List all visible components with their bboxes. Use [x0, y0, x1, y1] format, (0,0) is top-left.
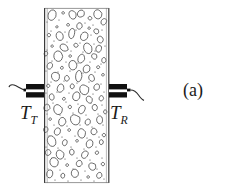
speckle-dot	[103, 178, 104, 179]
aggregate-particle	[91, 128, 97, 135]
speckle-dot	[103, 91, 104, 92]
speckle-dot	[51, 60, 52, 61]
speckle-dot	[64, 158, 65, 159]
aggregate-particle	[66, 164, 69, 167]
speckle-dot	[89, 61, 90, 62]
aggregate-particle	[47, 33, 50, 36]
aggregate-particle	[76, 70, 82, 81]
receiver-cable	[131, 90, 145, 100]
speckle-dot	[98, 136, 99, 137]
aggregate-particle	[97, 172, 102, 178]
transmitter-label-base: T	[20, 102, 31, 123]
speckle-dot	[52, 102, 53, 103]
aggregate-particle	[73, 92, 80, 101]
aggregate-particle	[54, 51, 63, 61]
speckle-dot	[50, 30, 51, 31]
aggregate-particle	[71, 169, 78, 177]
aggregate-particle	[51, 45, 54, 47]
transmitter-label: TT	[20, 103, 37, 127]
speckle-dot	[82, 72, 83, 73]
speckle-dot	[53, 40, 54, 41]
speckle-dot	[77, 103, 78, 104]
aggregate-particle	[65, 75, 70, 81]
aggregate-particle	[49, 118, 52, 121]
transmitter-transducer[interactable]	[9, 84, 44, 98]
aggregate-particle	[99, 140, 103, 145]
speckle-dot	[84, 170, 85, 171]
aggregate-particle	[45, 150, 51, 156]
speckle-dot	[63, 80, 64, 81]
speckle-dot	[58, 19, 59, 20]
speckle-dot	[79, 124, 80, 125]
speckle-dot	[77, 62, 78, 63]
aggregate-particle	[69, 55, 72, 58]
speckle-dot	[61, 136, 62, 137]
aggregate-particle	[77, 10, 84, 17]
transmitter-body-stripe	[26, 89, 44, 92]
aggregate-particle	[56, 26, 58, 28]
speckle-dot	[101, 157, 102, 158]
speckle-dot	[93, 180, 94, 181]
speckle-dot	[54, 179, 55, 180]
speckle-dot	[68, 92, 69, 93]
speckle-dot	[97, 113, 98, 114]
aggregate-particle	[97, 116, 103, 124]
speckle-dot	[74, 135, 75, 136]
aggregate-particle	[67, 23, 70, 26]
speckle-dot	[70, 50, 71, 51]
speckle-dot	[76, 157, 77, 158]
aggregate-particle	[94, 29, 99, 34]
panel-caption: (a)	[183, 80, 203, 101]
aggregate-particle	[50, 158, 58, 167]
speckle-dot	[47, 168, 48, 169]
aggregate-particle	[83, 65, 90, 73]
aggregate-particle	[49, 94, 54, 100]
speckle-dot	[45, 70, 46, 71]
speckle-dot	[80, 179, 81, 180]
speckle-dot	[102, 124, 103, 125]
speckle-dot	[90, 34, 91, 35]
speckle-dot	[85, 114, 86, 115]
transmitter-label-subscript: T	[31, 114, 38, 127]
aggregate-particle	[69, 60, 77, 69]
speckle-dot	[88, 81, 89, 82]
speckle-dot	[70, 146, 71, 147]
speckle-dot	[59, 169, 60, 170]
aggregate-particle	[51, 72, 59, 81]
speckle-dot	[101, 104, 102, 105]
speckle-dot	[45, 92, 46, 93]
aggregate-particle	[97, 66, 100, 69]
aggregate-particle	[85, 119, 90, 125]
aggregate-particle	[77, 23, 82, 29]
aggregate-particle	[62, 97, 65, 100]
speckle-dot	[91, 126, 92, 127]
speckle-dot	[93, 43, 94, 44]
aggregate-particle	[87, 176, 90, 179]
speckle-dot	[104, 45, 105, 46]
speckle-dot	[65, 61, 66, 62]
speckle-dot	[53, 124, 54, 125]
receiver-body-stripe	[109, 89, 127, 92]
aggregate-particle	[62, 12, 65, 15]
speckle-dot	[100, 83, 101, 84]
aggregate-particle	[56, 32, 63, 41]
aggregate-particle	[70, 84, 74, 89]
speckle-dot	[45, 146, 46, 147]
aggregate-particle	[96, 45, 102, 52]
aggregate-particle	[76, 160, 82, 166]
receiver-transducer[interactable]	[109, 84, 144, 100]
transmitter-cable	[9, 85, 26, 90]
speckle-dot	[94, 50, 95, 51]
receiver-neck	[127, 89, 131, 92]
aggregate-particle	[102, 58, 106, 63]
aggregate-particle	[102, 133, 105, 136]
receiver-label: TR	[110, 103, 128, 127]
speckle-dot	[83, 148, 84, 149]
speckle-dot	[72, 112, 73, 113]
speckle-dot	[96, 168, 97, 169]
aggregate-particle	[78, 129, 86, 138]
speckle-dot	[92, 93, 93, 94]
aggregate-particle	[94, 84, 100, 90]
speckle-dot	[50, 81, 51, 82]
aggregate-particle	[62, 140, 67, 146]
